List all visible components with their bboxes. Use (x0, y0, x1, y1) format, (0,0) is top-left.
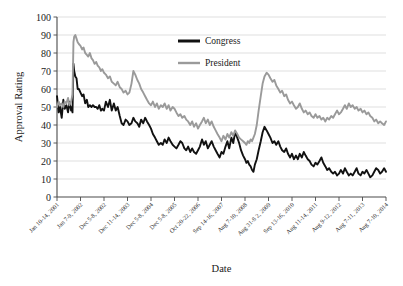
y-axis-title: Approval Rating (13, 71, 24, 142)
y-tick-label: 90 (41, 30, 51, 41)
legend-label-congress: Congress (205, 36, 241, 46)
y-tick-label: 80 (41, 48, 51, 59)
y-tick-label: 60 (41, 84, 51, 95)
y-tick-label: 50 (41, 102, 51, 113)
series-line-congress (57, 64, 386, 177)
y-tick-label: 10 (41, 174, 51, 185)
y-tick-label: 0 (46, 192, 51, 203)
series-group (57, 35, 386, 177)
x-tick-label: Jan 10-14, 2001 (27, 201, 60, 234)
chart-canvas: 0102030405060708090100 Jan 10-14, 2001Ja… (0, 0, 403, 286)
y-tick-label: 30 (41, 138, 51, 149)
legend-label-president: President (205, 58, 241, 68)
approval-rating-chart: 0102030405060708090100 Jan 10-14, 2001Ja… (0, 0, 403, 286)
y-tick-label: 100 (36, 12, 51, 23)
legend-group: CongressPresident (178, 36, 241, 68)
y-tick-label: 70 (41, 66, 51, 77)
x-axis-title: Date (212, 263, 232, 274)
x-axis-group: Jan 10-14, 2001Jan 7-9, 2002Dec 5-8, 200… (27, 197, 389, 237)
y-tick-label: 40 (41, 120, 51, 131)
y-axis-group: 0102030405060708090100 (36, 12, 57, 203)
y-tick-label: 20 (41, 156, 51, 167)
series-line-president (57, 35, 386, 145)
